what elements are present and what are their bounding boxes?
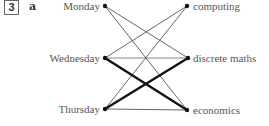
node-label-wednesday: Wednesday bbox=[50, 52, 100, 64]
node-label-economics: economics bbox=[193, 104, 240, 116]
cut-off-text-row bbox=[0, 121, 269, 126]
node-thursday bbox=[103, 107, 107, 111]
node-label-discrete-maths: discrete maths bbox=[193, 52, 256, 64]
node-label-monday: Monday bbox=[63, 0, 100, 12]
graph-edges bbox=[105, 6, 188, 110]
node-label-thursday: Thursday bbox=[58, 103, 100, 115]
node-computing bbox=[185, 4, 189, 8]
node-label-computing: computing bbox=[193, 0, 240, 12]
node-wednesday bbox=[103, 56, 107, 60]
node-discrete_maths bbox=[186, 56, 190, 60]
edge-thursday-economics bbox=[105, 109, 187, 110]
node-economics bbox=[185, 108, 189, 112]
node-monday bbox=[103, 4, 107, 8]
